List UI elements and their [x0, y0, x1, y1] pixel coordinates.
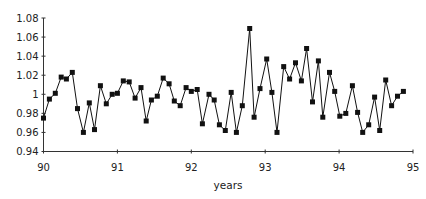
y-tick-label: 1.08 [16, 13, 38, 24]
square-marker [240, 103, 245, 108]
square-marker [81, 130, 86, 135]
square-marker [281, 64, 286, 69]
square-marker [366, 122, 371, 127]
square-marker [275, 130, 280, 135]
x-tick-label: 94 [333, 162, 346, 173]
square-marker [155, 94, 160, 99]
y-tick-label: 0.94 [16, 146, 38, 157]
square-marker [133, 96, 138, 101]
square-marker [299, 78, 304, 83]
square-marker [178, 103, 183, 108]
square-marker [389, 103, 394, 108]
square-marker [247, 26, 252, 31]
square-marker [350, 83, 355, 88]
line-chart: 0.940.960.9811.021.041.061.08 9091929394… [0, 0, 426, 199]
x-tick-label: 92 [185, 162, 198, 173]
square-marker [98, 83, 103, 88]
square-marker [287, 77, 292, 82]
x-axis-title: years [214, 179, 243, 191]
square-marker [264, 57, 269, 62]
square-marker [207, 92, 212, 97]
square-marker [395, 94, 400, 99]
square-marker [212, 98, 217, 103]
y-tick-label: 0.96 [16, 127, 38, 138]
square-marker [110, 92, 115, 97]
square-marker [70, 70, 75, 75]
square-marker [217, 122, 222, 127]
square-marker [343, 111, 348, 116]
square-marker [149, 98, 154, 103]
square-marker [401, 89, 406, 94]
square-marker [64, 77, 69, 82]
square-marker [87, 100, 92, 105]
x-tick-label: 90 [37, 162, 50, 173]
square-marker [332, 89, 337, 94]
square-marker [372, 95, 377, 100]
square-marker [234, 130, 239, 135]
square-marker [223, 128, 228, 133]
square-marker [383, 78, 388, 83]
square-marker [53, 91, 58, 96]
square-marker [184, 85, 189, 90]
y-axis: 0.940.960.9811.021.041.061.08 [16, 13, 45, 158]
x-tick-label: 95 [407, 162, 420, 173]
square-marker [189, 89, 194, 94]
y-tick-label: 1.02 [16, 70, 38, 81]
square-marker [161, 76, 166, 81]
square-marker [293, 60, 298, 65]
y-tick-label: 0.98 [16, 108, 38, 119]
y-tick-label: 1 [32, 89, 38, 100]
square-marker [200, 121, 205, 126]
square-marker [304, 46, 309, 51]
y-tick-label: 1.04 [16, 51, 38, 62]
square-marker [172, 99, 177, 104]
series-line [44, 29, 404, 133]
square-marker [258, 86, 263, 91]
x-tick-label: 91 [111, 162, 124, 173]
square-marker [104, 101, 109, 106]
square-marker [229, 90, 234, 95]
square-marker [75, 106, 80, 111]
x-ticks: 909192939495 [37, 150, 419, 173]
square-marker [195, 87, 200, 92]
square-marker [121, 78, 126, 83]
square-marker [47, 97, 52, 102]
square-marker [59, 75, 64, 80]
square-marker [377, 128, 382, 133]
x-tick-label: 93 [259, 162, 272, 173]
square-marker [139, 85, 144, 90]
square-marker [252, 115, 257, 120]
square-marker [327, 70, 332, 75]
plot-area [41, 26, 406, 135]
square-marker [144, 119, 149, 124]
square-marker [316, 58, 321, 63]
square-marker [310, 99, 315, 104]
square-marker [355, 110, 360, 115]
square-marker [337, 114, 342, 119]
y-tick-label: 1.06 [16, 32, 38, 43]
square-marker [41, 116, 46, 121]
square-marker [360, 130, 365, 135]
square-marker [320, 115, 325, 120]
y-ticks: 0.940.960.9811.021.041.061.08 [16, 13, 45, 158]
square-marker [167, 81, 172, 86]
x-axis: 909192939495 years [37, 150, 419, 192]
square-marker [92, 127, 97, 132]
square-marker [127, 79, 132, 84]
square-marker [269, 90, 274, 95]
square-marker [115, 91, 120, 96]
